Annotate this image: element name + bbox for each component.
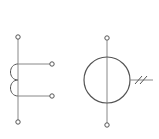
tapped-coil-symbol	[11, 35, 55, 124]
coil-winding-upper	[11, 64, 19, 80]
circle-source-symbol	[84, 36, 153, 127]
source-bottom-terminal[interactable]	[105, 123, 109, 127]
coil-tap-upper-terminal[interactable]	[50, 62, 54, 66]
coil-winding-lower	[11, 80, 19, 96]
coil-bottom-terminal[interactable]	[16, 120, 20, 124]
coil-top-terminal[interactable]	[16, 35, 20, 39]
schematic-canvas	[0, 0, 159, 139]
source-top-terminal[interactable]	[105, 36, 109, 40]
coil-tap-lower-terminal[interactable]	[50, 94, 54, 98]
